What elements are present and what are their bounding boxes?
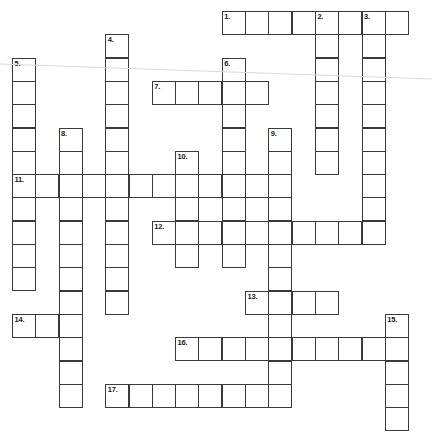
grid-cell[interactable] [59,337,83,361]
grid-cell[interactable]: 10. [175,151,199,175]
grid-cell[interactable] [105,151,129,175]
grid-cell[interactable] [268,267,292,291]
grid-cell[interactable] [222,174,246,198]
grid-cell[interactable] [175,174,199,198]
grid-cell[interactable] [268,197,292,221]
grid-cell[interactable] [222,244,246,268]
grid-cell[interactable] [315,34,339,58]
grid-cell[interactable] [105,197,129,221]
grid-cell[interactable] [362,337,386,361]
grid-cell[interactable] [245,81,269,105]
grid-cell[interactable] [245,384,269,408]
grid-cell[interactable] [152,174,176,198]
grid-cell[interactable] [268,244,292,268]
grid-cell[interactable] [268,151,292,175]
grid-cell[interactable] [198,81,222,105]
grid-cell[interactable] [129,384,153,408]
grid-cell[interactable] [362,197,386,221]
grid-cell[interactable] [292,337,316,361]
grid-cell[interactable] [59,314,83,338]
grid-cell[interactable] [175,244,199,268]
grid-cell[interactable] [268,221,292,245]
grid-cell[interactable] [105,221,129,245]
grid-cell[interactable] [105,174,129,198]
grid-cell[interactable] [198,174,222,198]
grid-cell[interactable] [222,151,246,175]
grid-cell[interactable] [268,361,292,385]
grid-cell[interactable] [315,58,339,82]
grid-cell[interactable] [12,221,36,245]
grid-cell[interactable] [362,104,386,128]
grid-cell[interactable] [105,81,129,105]
grid-cell[interactable] [59,384,83,408]
grid-cell[interactable] [12,104,36,128]
grid-cell[interactable] [35,314,59,338]
grid-cell[interactable] [268,174,292,198]
grid-cell[interactable] [268,314,292,338]
grid-cell[interactable]: 17. [105,384,129,408]
grid-cell[interactable] [245,174,269,198]
grid-cell[interactable]: 14. [12,314,36,338]
grid-cell[interactable] [105,104,129,128]
grid-cell[interactable] [59,197,83,221]
grid-cell[interactable]: 3. [362,11,386,35]
grid-cell[interactable] [315,291,339,315]
grid-cell[interactable] [222,337,246,361]
grid-cell[interactable] [362,174,386,198]
grid-cell[interactable] [245,221,269,245]
grid-cell[interactable] [198,337,222,361]
grid-cell[interactable] [315,337,339,361]
grid-cell[interactable]: 4. [105,34,129,58]
grid-cell[interactable] [82,174,106,198]
grid-cell[interactable] [12,267,36,291]
grid-cell[interactable]: 13. [245,291,269,315]
grid-cell[interactable] [12,151,36,175]
grid-cell[interactable] [222,104,246,128]
grid-cell[interactable] [105,244,129,268]
grid-cell[interactable] [105,128,129,152]
grid-cell[interactable] [12,81,36,105]
grid-cell[interactable] [315,104,339,128]
grid-cell[interactable] [292,221,316,245]
grid-cell[interactable] [362,34,386,58]
grid-cell[interactable] [268,11,292,35]
grid-cell[interactable] [12,197,36,221]
grid-cell[interactable] [59,151,83,175]
grid-cell[interactable] [268,384,292,408]
grid-cell[interactable] [59,174,83,198]
grid-cell[interactable] [12,128,36,152]
grid-cell[interactable] [245,337,269,361]
grid-cell[interactable] [315,221,339,245]
grid-cell[interactable] [198,384,222,408]
grid-cell[interactable] [59,221,83,245]
grid-cell[interactable] [315,128,339,152]
grid-cell[interactable]: 11. [12,174,36,198]
grid-cell[interactable]: 16. [175,337,199,361]
grid-cell[interactable] [59,244,83,268]
grid-cell[interactable] [338,221,362,245]
grid-cell[interactable] [222,128,246,152]
grid-cell[interactable] [362,58,386,82]
grid-cell[interactable] [175,81,199,105]
grid-cell[interactable] [222,197,246,221]
grid-cell[interactable] [175,384,199,408]
grid-cell[interactable] [198,221,222,245]
grid-cell[interactable]: 1. [222,11,246,35]
grid-cell[interactable] [105,267,129,291]
grid-cell[interactable]: 6. [222,58,246,82]
grid-cell[interactable] [292,11,316,35]
grid-cell[interactable] [129,174,153,198]
grid-cell[interactable]: 5. [12,58,36,82]
grid-cell[interactable] [105,58,129,82]
grid-cell[interactable]: 2. [315,11,339,35]
grid-cell[interactable]: 9. [268,128,292,152]
grid-cell[interactable] [175,197,199,221]
grid-cell[interactable] [338,11,362,35]
grid-cell[interactable] [268,337,292,361]
grid-cell[interactable]: 12. [152,221,176,245]
grid-cell[interactable] [222,81,246,105]
grid-cell[interactable] [385,11,409,35]
grid-cell[interactable] [362,221,386,245]
grid-cell[interactable] [315,81,339,105]
grid-cell[interactable] [59,361,83,385]
